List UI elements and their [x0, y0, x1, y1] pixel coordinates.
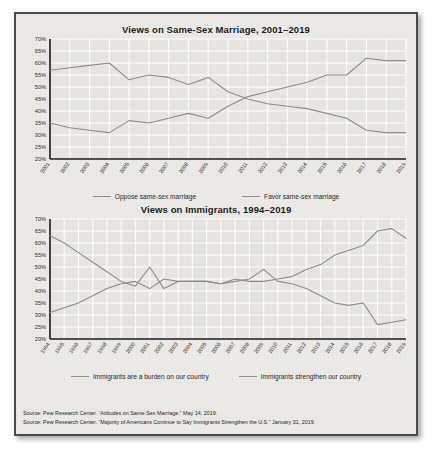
- svg-text:25%: 25%: [35, 324, 46, 330]
- svg-text:2014: 2014: [296, 161, 308, 174]
- svg-text:2002: 2002: [153, 341, 165, 354]
- svg-text:35%: 35%: [35, 300, 46, 306]
- svg-text:2017: 2017: [367, 341, 379, 354]
- svg-text:30%: 30%: [35, 312, 46, 318]
- svg-text:2006: 2006: [210, 341, 222, 354]
- svg-text:1998: 1998: [96, 341, 108, 354]
- chart-1-title: Views on Same-Sex Marriage, 2001–2019: [16, 24, 416, 35]
- svg-text:1996: 1996: [68, 341, 80, 354]
- svg-text:20%: 20%: [35, 336, 46, 342]
- svg-text:2012: 2012: [295, 341, 307, 354]
- svg-text:2007: 2007: [224, 341, 236, 354]
- svg-text:70%: 70%: [35, 216, 46, 222]
- svg-text:2018: 2018: [375, 161, 387, 174]
- svg-text:2019: 2019: [395, 341, 407, 354]
- svg-text:2018: 2018: [381, 341, 393, 354]
- source-line-2: Source: Pew Research Center. “Majority o…: [23, 418, 315, 426]
- svg-text:2015: 2015: [316, 161, 328, 174]
- svg-text:40%: 40%: [35, 108, 46, 114]
- svg-text:25%: 25%: [35, 144, 46, 150]
- svg-text:65%: 65%: [35, 48, 46, 54]
- svg-text:70%: 70%: [35, 36, 46, 42]
- svg-text:50%: 50%: [35, 84, 46, 90]
- svg-text:65%: 65%: [35, 228, 46, 234]
- svg-text:2009: 2009: [253, 341, 265, 354]
- svg-text:2006: 2006: [138, 161, 150, 174]
- svg-text:2013: 2013: [310, 341, 322, 354]
- svg-text:2016: 2016: [336, 161, 348, 174]
- chart-immigrants: Views on Immigrants, 1994–2019 20%25%30%…: [16, 204, 416, 380]
- svg-text:45%: 45%: [35, 96, 46, 102]
- svg-text:1995: 1995: [53, 341, 65, 354]
- document-page: Views on Same-Sex Marriage, 2001–2019 20…: [14, 12, 418, 436]
- svg-text:2013: 2013: [276, 161, 288, 174]
- svg-text:2003: 2003: [167, 341, 179, 354]
- svg-text:2019: 2019: [395, 161, 407, 174]
- svg-text:35%: 35%: [35, 120, 46, 126]
- svg-text:2011: 2011: [237, 161, 249, 174]
- svg-text:2004: 2004: [98, 161, 110, 174]
- svg-text:55%: 55%: [35, 252, 46, 258]
- svg-text:2010: 2010: [267, 341, 279, 354]
- sources-block: Source: Pew Research Center. “Attitudes …: [23, 409, 315, 426]
- svg-text:45%: 45%: [35, 276, 46, 282]
- svg-text:2012: 2012: [257, 161, 269, 174]
- svg-text:1997: 1997: [82, 341, 94, 354]
- chart-1-svg: 20%25%30%35%40%45%50%55%60%65%70%2001200…: [16, 35, 416, 195]
- svg-text:2002: 2002: [59, 161, 71, 174]
- svg-text:2014: 2014: [324, 341, 336, 354]
- svg-text:2001: 2001: [39, 161, 51, 174]
- svg-text:2017: 2017: [355, 161, 367, 174]
- svg-text:2010: 2010: [217, 161, 229, 174]
- svg-text:2000: 2000: [124, 341, 136, 354]
- source-line-1: Source: Pew Research Center. “Attitudes …: [23, 409, 315, 417]
- svg-text:2004: 2004: [181, 341, 193, 354]
- svg-text:1994: 1994: [39, 341, 51, 354]
- svg-text:2016: 2016: [352, 341, 364, 354]
- svg-text:30%: 30%: [35, 132, 46, 138]
- svg-text:2005: 2005: [118, 161, 130, 174]
- svg-text:2015: 2015: [338, 341, 350, 354]
- svg-text:2001: 2001: [139, 341, 151, 354]
- svg-text:2011: 2011: [281, 341, 293, 354]
- legend-line-icon: [71, 376, 89, 377]
- svg-text:2009: 2009: [197, 161, 209, 174]
- chart-1-plot-area: 20%25%30%35%40%45%50%55%60%65%70%2001200…: [16, 35, 416, 195]
- svg-text:55%: 55%: [35, 72, 46, 78]
- svg-text:2003: 2003: [79, 161, 91, 174]
- svg-text:50%: 50%: [35, 264, 46, 270]
- svg-text:60%: 60%: [35, 60, 46, 66]
- chart-2-svg: 20%25%30%35%40%45%50%55%60%65%70%1994199…: [16, 215, 416, 375]
- svg-text:2008: 2008: [177, 161, 189, 174]
- chart-2-plot-area: 20%25%30%35%40%45%50%55%60%65%70%1994199…: [16, 215, 416, 375]
- svg-text:2005: 2005: [196, 341, 208, 354]
- legend-line-icon: [239, 376, 257, 377]
- svg-text:2008: 2008: [238, 341, 250, 354]
- svg-text:2007: 2007: [158, 161, 170, 174]
- chart-2-title: Views on Immigrants, 1994–2019: [16, 204, 416, 215]
- legend-line-icon: [242, 196, 260, 197]
- legend-line-icon: [93, 196, 111, 197]
- svg-text:20%: 20%: [35, 156, 46, 162]
- svg-text:40%: 40%: [35, 288, 46, 294]
- chart-same-sex-marriage: Views on Same-Sex Marriage, 2001–2019 20…: [16, 24, 416, 200]
- svg-text:1999: 1999: [110, 341, 122, 354]
- svg-text:60%: 60%: [35, 240, 46, 246]
